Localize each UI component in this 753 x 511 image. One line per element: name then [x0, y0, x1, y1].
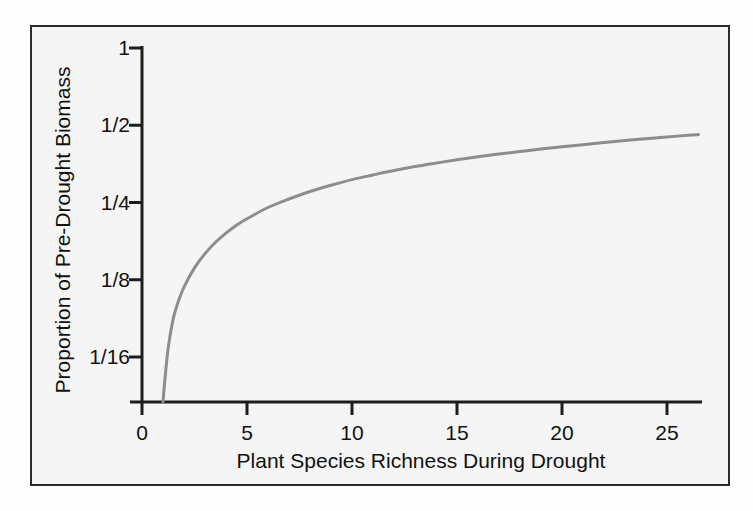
- x-tick-label: 20: [550, 421, 573, 445]
- x-tick-label: 5: [241, 421, 253, 445]
- y-tick-label: 1: [40, 36, 130, 60]
- x-tick-label: 15: [445, 421, 468, 445]
- x-axis-title: Plant Species Richness During Drought: [142, 449, 700, 473]
- x-tick-label: 0: [136, 421, 148, 445]
- x-tick-label: 10: [340, 421, 363, 445]
- x-tick-label: 25: [655, 421, 678, 445]
- figure-frame: [30, 25, 730, 486]
- y-axis-title: Proportion of Pre-Drought Biomass: [51, 60, 75, 400]
